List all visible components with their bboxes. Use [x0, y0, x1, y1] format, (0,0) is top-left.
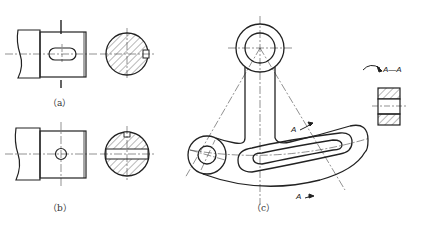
technical-drawing [0, 0, 423, 225]
figure-b-shaft-front-view [5, 122, 98, 187]
section-view-title: A—A [383, 65, 402, 74]
figure-a-section-view [100, 28, 155, 80]
figure-b-section-view [100, 126, 155, 182]
figure-c-caption: （c） [252, 201, 275, 214]
figure-a-shaft-front-view [5, 20, 98, 88]
cut-label-top: A [291, 125, 296, 134]
rotation-arrow-icon [363, 65, 382, 72]
figure-b-caption: （b） [48, 201, 72, 214]
figure-c-lever-arm [188, 24, 368, 186]
cut-label-bottom: A [296, 192, 301, 201]
section-view-a-a [372, 88, 406, 125]
figure-a-caption: （a） [48, 96, 71, 109]
